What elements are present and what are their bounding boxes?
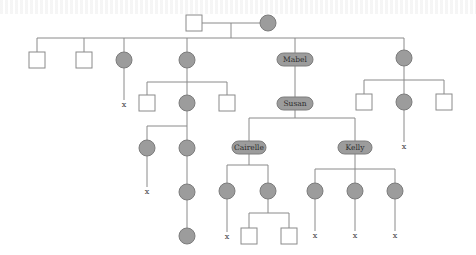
male-node [219, 95, 235, 111]
label-mabel: Mabel [283, 55, 307, 64]
female-node [260, 183, 276, 199]
male-node [281, 228, 297, 244]
female-node [396, 50, 412, 66]
female-node [179, 140, 195, 156]
x-mark: x [402, 142, 407, 151]
female-node [179, 95, 195, 111]
label-cairelle: Cairelle [234, 143, 264, 152]
female-node [347, 183, 363, 199]
male-node [436, 94, 452, 110]
female-node [179, 184, 195, 200]
female-node [179, 228, 195, 244]
male-node [241, 228, 257, 244]
label-kelly: Kelly [346, 143, 366, 152]
male-node [356, 94, 372, 110]
female-node [260, 15, 276, 31]
node-mabel: Mabel [277, 53, 313, 66]
label-susan: Susan [283, 99, 306, 108]
x-mark: x [353, 231, 358, 240]
x-mark: x [393, 231, 398, 240]
female-node [116, 52, 132, 68]
male-node [186, 15, 202, 31]
female-node [387, 183, 403, 199]
x-mark: x [122, 100, 127, 109]
x-mark: x [145, 187, 150, 196]
male-node [29, 52, 45, 68]
female-node [179, 52, 195, 68]
female-node [307, 183, 323, 199]
x-marks: x x x x x x x [122, 100, 407, 241]
connector-lines [37, 23, 444, 232]
x-mark: x [225, 232, 230, 241]
family-tree-diagram: Mabel Susan Cairelle Kelly x x x x x x x [0, 0, 476, 255]
female-node [139, 140, 155, 156]
node-susan: Susan [277, 97, 313, 110]
male-node [76, 52, 92, 68]
female-node [396, 94, 412, 110]
male-node [139, 95, 155, 111]
node-kelly: Kelly [338, 141, 372, 154]
node-cairelle: Cairelle [232, 141, 266, 154]
female-node [219, 183, 235, 199]
x-mark: x [313, 231, 318, 240]
